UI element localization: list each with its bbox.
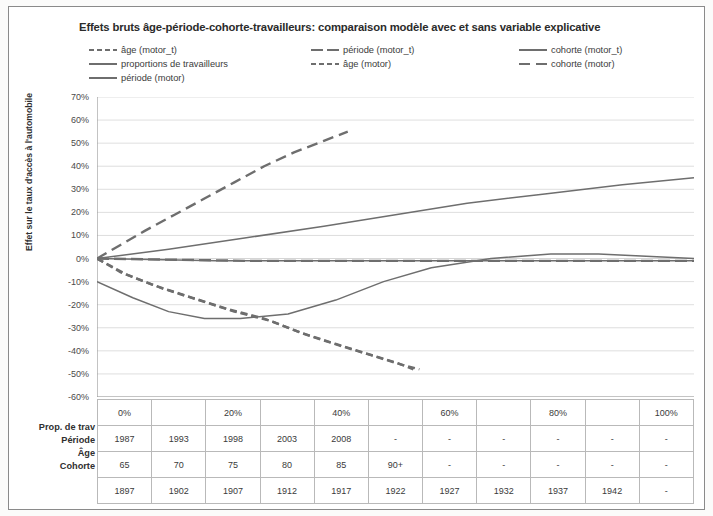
legend-item-label: cohorte (motor_t) (551, 45, 622, 55)
y-axis-tick-label: 70% (71, 92, 89, 102)
chart-screenshot: Effets bruts âge-période-cohorte-travail… (0, 0, 713, 516)
table-cell: - (423, 426, 477, 452)
series-line (97, 132, 348, 259)
chart-frame: Effets bruts âge-période-cohorte-travail… (8, 6, 705, 510)
table-header-cell (477, 400, 531, 426)
table-cell: 1987 (98, 426, 152, 452)
y-axis-tick-label: -10% (68, 277, 89, 287)
table-row-label: Période (19, 434, 95, 447)
table-cell: - (368, 426, 422, 452)
table-row-label: Cohorte (19, 460, 95, 473)
legend-item[interactable]: période (motor_t) (311, 45, 414, 55)
table-cell: - (585, 426, 639, 452)
table-row: 19871993199820032008------ (98, 426, 694, 452)
table-header-cell (260, 400, 314, 426)
table-cell: 1907 (206, 478, 260, 504)
series-line (97, 259, 413, 370)
table-cell: 2008 (314, 426, 368, 452)
legend-swatch-icon (519, 46, 547, 54)
legend-item[interactable]: âge (motor) (311, 59, 391, 69)
table-header-cell (152, 400, 206, 426)
table-cell: 1932 (477, 478, 531, 504)
table-header-cell: 80% (531, 400, 585, 426)
table-cell: 1922 (368, 478, 422, 504)
table-cell: 90+ (368, 452, 422, 478)
table-cell: - (639, 478, 693, 504)
y-axis-tick-label: 10% (71, 230, 89, 240)
legend-item-label: cohorte (motor) (551, 59, 615, 69)
y-axis-tick-label: 40% (71, 161, 89, 171)
table-cell: 75 (206, 452, 260, 478)
chart-legend: âge (motor_t)proportions de travailleurs… (89, 45, 699, 89)
table-cell: - (639, 426, 693, 452)
legend-item-label: période (motor) (121, 73, 185, 83)
legend-swatch-icon (519, 60, 547, 68)
y-axis-title: Effet sur le taux d'accès à l'automobile (24, 67, 34, 277)
table-row: 657075808590+----- (98, 452, 694, 478)
table-cell: 1917 (314, 478, 368, 504)
legend-swatch-icon (311, 46, 339, 54)
chart-title: Effets bruts âge-période-cohorte-travail… (79, 21, 679, 33)
table-cell: 2003 (260, 426, 314, 452)
table-cell: - (531, 452, 585, 478)
y-axis-tick-label: -50% (68, 369, 89, 379)
table-header-cell (368, 400, 422, 426)
series-line (97, 254, 694, 319)
y-axis-tick-label: -60% (68, 392, 89, 402)
table-cell: - (477, 452, 531, 478)
table-cell: 65 (98, 452, 152, 478)
table-cell: 1998 (206, 426, 260, 452)
legend-item-label: période (motor_t) (343, 45, 414, 55)
legend-item[interactable]: âge (motor_t) (89, 45, 177, 55)
table-row-labels: Prop. de travPériodeÂgeCohorte (19, 421, 95, 473)
plot-svg (97, 97, 694, 397)
table-cell: - (585, 452, 639, 478)
y-axis-tick-label: 0% (76, 254, 89, 264)
legend-swatch-icon (89, 60, 117, 68)
table-cell: - (477, 426, 531, 452)
plot-area (97, 97, 694, 397)
series-line (97, 259, 419, 370)
data-table: 0%20%40%60%80%100%19871993199820032008--… (97, 399, 694, 504)
table-header-cell: 100% (639, 400, 693, 426)
table-cell: - (423, 452, 477, 478)
table-cell: 1902 (152, 478, 206, 504)
y-axis-tick-label: -30% (68, 323, 89, 333)
table-header-row: 0%20%40%60%80%100% (98, 400, 694, 426)
legend-swatch-icon (311, 60, 339, 68)
legend-item[interactable]: période (motor) (89, 73, 185, 83)
table-cell: 85 (314, 452, 368, 478)
legend-swatch-icon (89, 74, 117, 82)
table-cell: - (531, 426, 585, 452)
y-axis-tick-label: -40% (68, 346, 89, 356)
table-cell: 70 (152, 452, 206, 478)
table-cell: 1912 (260, 478, 314, 504)
data-table-container: 0%20%40%60%80%100%19871993199820032008--… (97, 399, 694, 505)
series-lines (97, 132, 694, 370)
legend-item-label: âge (motor) (343, 59, 391, 69)
table-cell: 1993 (152, 426, 206, 452)
legend-item-label: proportions de travailleurs (121, 59, 228, 69)
table-cell: 1942 (585, 478, 639, 504)
table-row-label: Âge (19, 447, 95, 460)
table-header-cell: 60% (423, 400, 477, 426)
legend-item-label: âge (motor_t) (121, 45, 177, 55)
legend-swatch-icon (89, 46, 117, 54)
table-row-label: Prop. de trav (19, 421, 95, 434)
y-axis-tick-label: -20% (68, 300, 89, 310)
y-axis-tick-label: 30% (71, 184, 89, 194)
table-row: 1897190219071912191719221927193219371942… (98, 478, 694, 504)
legend-item[interactable]: cohorte (motor) (519, 59, 615, 69)
table-header-cell: 40% (314, 400, 368, 426)
table-cell: 80 (260, 452, 314, 478)
series-line (97, 178, 694, 259)
table-cell: 1937 (531, 478, 585, 504)
legend-item[interactable]: proportions de travailleurs (89, 59, 228, 69)
legend-item[interactable]: cohorte (motor_t) (519, 45, 622, 55)
table-header-cell: 0% (98, 400, 152, 426)
y-axis-tick-labels: 70%60%50%40%30%20%10%0%-10%-20%-30%-40%-… (47, 90, 93, 404)
y-axis-tick-label: 20% (71, 207, 89, 217)
table-cell: - (639, 452, 693, 478)
y-axis-tick-label: 60% (71, 115, 89, 125)
y-axis-tick-label: 50% (71, 138, 89, 148)
